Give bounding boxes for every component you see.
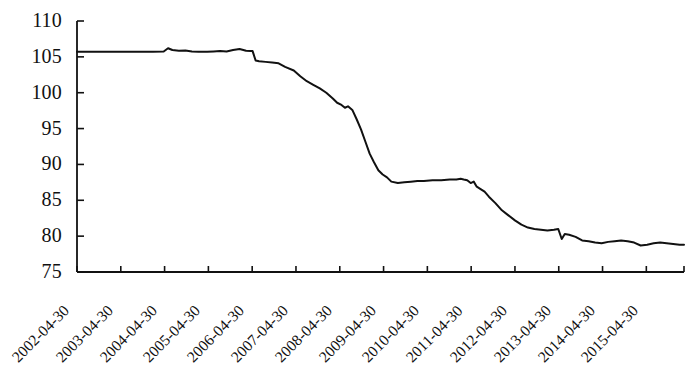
y-tick-label: 95	[6, 118, 62, 138]
y-tick-label: 90	[6, 153, 62, 173]
axis-lines	[77, 21, 684, 272]
y-tick-label: 110	[6, 10, 62, 30]
y-axis-ticks	[77, 21, 84, 272]
data-series-line	[77, 48, 684, 245]
y-tick-label: 105	[6, 46, 62, 66]
y-tick-label: 75	[6, 261, 62, 281]
line-chart: 7580859095100105110 2002-04-302003-04-30…	[0, 0, 689, 370]
y-tick-label: 80	[6, 225, 62, 245]
y-tick-label: 85	[6, 189, 62, 209]
y-tick-label: 100	[6, 82, 62, 102]
